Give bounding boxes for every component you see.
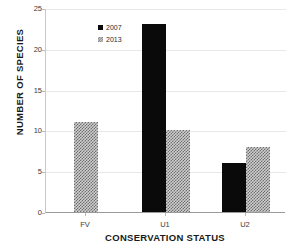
bar-u1-2007	[142, 24, 166, 212]
gridline	[46, 50, 286, 51]
x-axis-title: CONSERVATION STATUS	[45, 232, 285, 243]
gridline	[46, 9, 286, 10]
legend-item-2013: 2013	[98, 35, 122, 44]
chart-legend: 2007 2013	[98, 23, 122, 44]
legend-solid-square-marker-icon	[98, 25, 103, 30]
x-tick-label: U2	[220, 220, 270, 229]
x-tick-label: FV	[60, 220, 110, 229]
y-tick-label: 20	[18, 46, 42, 54]
plot-area: 2007 2013	[45, 9, 285, 213]
legend-label-2007: 2007	[106, 24, 122, 31]
bar-chart-figure: NUMBER OF SPECIES 0510152025 2007 2013 F…	[0, 0, 295, 248]
bar-u1-2013	[166, 130, 190, 212]
legend-item-2007: 2007	[98, 23, 122, 32]
y-tick-label: 25	[18, 5, 42, 13]
x-tick-mark	[85, 213, 86, 216]
legend-hatched-square-marker-icon	[98, 37, 103, 42]
y-tick-label: 5	[18, 168, 42, 176]
y-tick-label: 15	[18, 87, 42, 95]
y-tick-label: 10	[18, 127, 42, 135]
x-tick-mark	[245, 213, 246, 216]
x-tick-mark	[165, 213, 166, 216]
y-tick-label: 0	[18, 209, 42, 217]
y-axis-tick-labels: 0510152025	[18, 0, 42, 248]
bar-u2-2007	[222, 163, 246, 212]
bar-fv-2013	[74, 122, 98, 212]
legend-label-2013: 2013	[106, 36, 122, 43]
gridline	[46, 91, 286, 92]
x-tick-label: U1	[140, 220, 190, 229]
bar-u2-2013	[246, 147, 270, 212]
